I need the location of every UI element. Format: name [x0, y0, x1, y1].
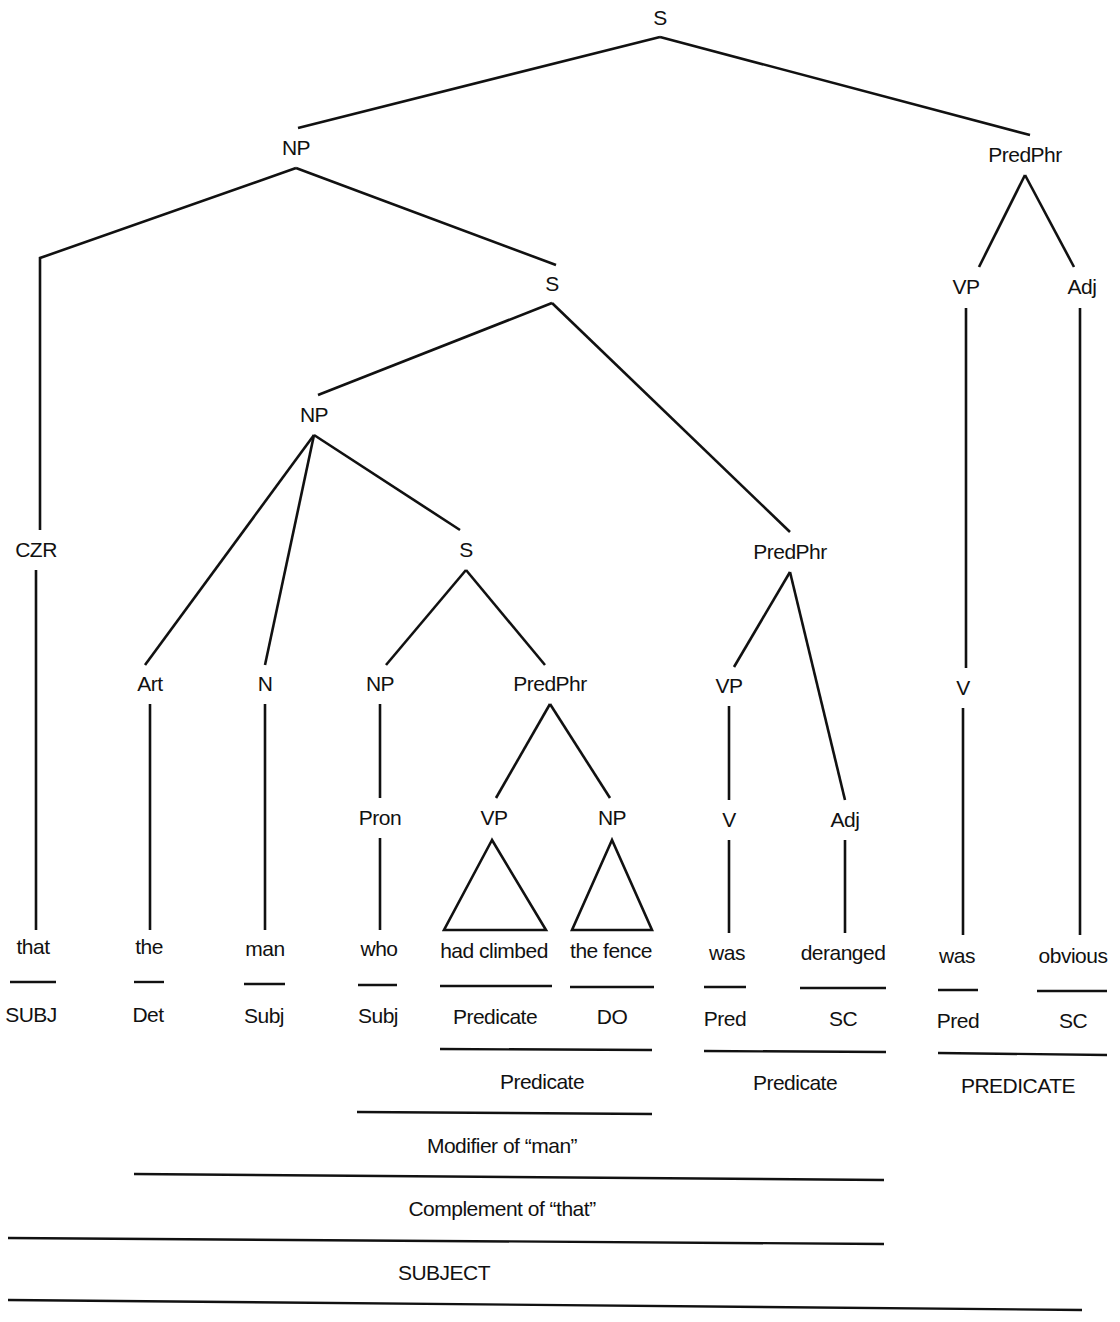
- node-VP: VP: [480, 806, 507, 830]
- triangle-abbreviation: [444, 840, 546, 930]
- edge: [318, 303, 552, 395]
- node-VP: VP: [715, 674, 742, 698]
- word: man: [245, 937, 284, 961]
- edge: [314, 435, 460, 530]
- node-NP: NP: [598, 806, 626, 830]
- node-S-root: S: [653, 6, 667, 30]
- node-Art: Art: [137, 672, 162, 696]
- word: the fence: [570, 939, 652, 963]
- edge: [979, 175, 1025, 267]
- node-Adj: Adj: [1068, 275, 1097, 299]
- function-label: Subj: [358, 1004, 398, 1028]
- node-VP: VP: [952, 275, 979, 299]
- word: who: [360, 937, 397, 961]
- edge: [298, 37, 660, 128]
- function-label: Pred: [704, 1007, 746, 1031]
- function-label: SUBJ: [5, 1003, 57, 1027]
- edge: [466, 570, 545, 665]
- triangle-abbreviation: [572, 840, 652, 930]
- node-PredPhr: PredPhr: [513, 672, 587, 696]
- edge: [790, 572, 845, 800]
- edge: [40, 168, 296, 530]
- node-V: V: [722, 808, 736, 832]
- grouping-label: Complement of “that”: [408, 1197, 595, 1221]
- function-label: Pred: [937, 1009, 979, 1033]
- function-label: Predicate: [453, 1005, 537, 1029]
- tree-lines: [0, 0, 1120, 1322]
- node-PredPhr: PredPhr: [753, 540, 827, 564]
- edge: [296, 168, 556, 265]
- node-Pron: Pron: [359, 806, 401, 830]
- word: obvious: [1039, 944, 1108, 968]
- grouping-label: Modifier of “man”: [427, 1134, 577, 1158]
- function-label: DO: [597, 1005, 628, 1029]
- word: the: [135, 935, 163, 959]
- grouping-label: PREDICATE: [961, 1074, 1075, 1098]
- function-label: SC: [1059, 1009, 1087, 1033]
- node-PredPhr: PredPhr: [988, 143, 1062, 167]
- function-label: Det: [132, 1003, 163, 1027]
- function-label: SC: [829, 1007, 857, 1031]
- edge: [386, 570, 466, 665]
- node-NP: NP: [282, 136, 310, 160]
- node-S: S: [459, 538, 473, 562]
- function-label: Subj: [244, 1004, 284, 1028]
- word: had climbed: [440, 939, 548, 963]
- grouping-label: Predicate: [753, 1071, 837, 1095]
- node-S: S: [545, 272, 559, 296]
- edge: [552, 303, 790, 532]
- edge: [550, 704, 610, 798]
- word: was: [939, 944, 975, 968]
- node-NP: NP: [300, 403, 328, 427]
- grouping-label: SUBJECT: [398, 1261, 490, 1285]
- edge: [734, 572, 790, 667]
- node-CZR: CZR: [15, 538, 57, 562]
- word: that: [16, 935, 49, 959]
- node-V: V: [956, 676, 970, 700]
- word: deranged: [801, 941, 886, 965]
- grouping-label: Predicate: [500, 1070, 584, 1094]
- word: was: [709, 941, 745, 965]
- node-Adj: Adj: [831, 808, 860, 832]
- node-NP: NP: [366, 672, 394, 696]
- node-N: N: [258, 672, 273, 696]
- edge: [496, 704, 550, 798]
- edge: [1025, 175, 1074, 267]
- edge: [660, 37, 1030, 135]
